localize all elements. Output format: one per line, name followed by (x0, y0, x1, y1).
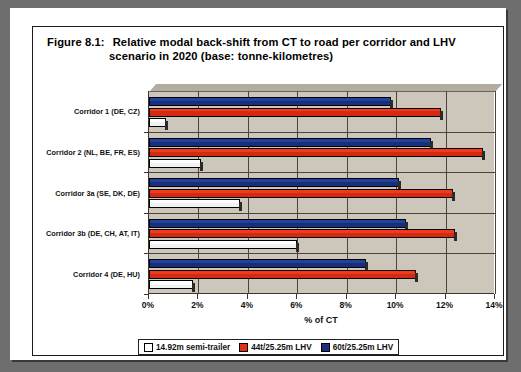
x-axis-tick (296, 294, 297, 299)
bar-shadow (192, 283, 195, 292)
legend-label-0: 14.92m semi-trailer (156, 343, 230, 352)
x-axis-tick (247, 294, 248, 299)
category-separator (149, 172, 495, 173)
page-background: Figure 8.1:Relative modal back-shift fro… (0, 0, 521, 372)
bar-shadow (200, 162, 203, 171)
bar-highlight (150, 200, 239, 203)
bar-highlight (150, 149, 482, 152)
figure-number: Figure 8.1: (47, 36, 105, 48)
y-axis-category-label: Corridor 1 (DE, CZ) (74, 107, 140, 116)
legend-item-1: 44t/25.25m LHV (239, 343, 312, 352)
x-axis-tick-label: 0% (142, 300, 154, 310)
bar-highlight (150, 241, 296, 244)
bar-shadow (165, 121, 168, 130)
bar-highlight (150, 220, 405, 223)
figure-title: Figure 8.1:Relative modal back-shift fro… (47, 35, 477, 63)
x-axis-tick-label: 12% (436, 300, 453, 310)
bar-highlight (150, 271, 415, 274)
x-axis-tick (148, 294, 149, 299)
bar-red (149, 189, 453, 198)
bar-highlight (150, 281, 192, 284)
x-axis-tick-label: 14% (485, 300, 502, 310)
x-axis-tick-label: 10% (387, 300, 404, 310)
gridline-vertical (495, 91, 496, 294)
bar-white (149, 159, 201, 168)
figure-page: Figure 8.1:Relative modal back-shift fro… (10, 8, 506, 360)
x-axis-tick-label: 8% (340, 300, 352, 310)
category-separator (149, 253, 495, 254)
bar-white (149, 199, 240, 208)
figure-title-line1: Relative modal back-shift from CT to roa… (113, 36, 456, 48)
x-axis-tick (346, 294, 347, 299)
bar-shadow (452, 192, 455, 201)
bar-shadow (454, 232, 457, 241)
y-axis-category-label: Corridor 2 (NL, BE, FR, ES) (46, 147, 140, 156)
plot-top-face (149, 84, 502, 92)
x-axis-tick (494, 294, 495, 299)
bar-shadow (440, 111, 443, 120)
y-axis-category-label: Corridor 3b (DE, CH, AT, IT) (46, 229, 140, 238)
legend-swatch-44t-lhv (239, 343, 248, 352)
x-axis-tick (197, 294, 198, 299)
bar-highlight (150, 139, 430, 142)
chart-legend: 14.92m semi-trailer 44t/25.25m LHV 60t/2… (138, 339, 399, 355)
y-axis-category-label: Corridor 3a (SE, DK, DE) (55, 188, 140, 197)
bar-blue (149, 259, 366, 268)
category-separator (149, 213, 495, 214)
bar-chart: Corridor 1 (DE, CZ)Corridor 2 (NL, BE, F… (148, 91, 496, 296)
x-axis-tick-label: 4% (241, 300, 253, 310)
bar-blue (149, 219, 406, 228)
legend-label-2: 60t/25.25m LHV (333, 343, 394, 352)
legend-label-1: 44t/25.25m LHV (251, 343, 312, 352)
bar-highlight (150, 160, 200, 163)
bar-red (149, 108, 441, 117)
bar-blue (149, 138, 431, 147)
legend-swatch-60t-lhv (321, 343, 330, 352)
bar-shadow (239, 202, 242, 211)
plot-area: Corridor 1 (DE, CZ)Corridor 2 (NL, BE, F… (148, 91, 494, 294)
bar-shadow (415, 273, 418, 282)
bar-highlight (150, 179, 398, 182)
bar-blue (149, 97, 391, 106)
x-axis-tick-label: 6% (290, 300, 302, 310)
bar-blue (149, 178, 399, 187)
bar-highlight (150, 119, 165, 122)
x-axis-tick (445, 294, 446, 299)
bar-shadow (296, 243, 299, 252)
x-axis-tick (395, 294, 396, 299)
x-axis-tick-label: 2% (191, 300, 203, 310)
figure-title-line2: scenario in 2020 (base: tonne-kilometres… (109, 49, 477, 63)
bar-highlight (150, 230, 454, 233)
bar-highlight (150, 260, 365, 263)
x-axis-title: % of CT (148, 315, 494, 325)
legend-swatch-semi-trailer (144, 343, 153, 352)
bar-red (149, 270, 416, 279)
bar-highlight (150, 109, 440, 112)
y-axis-category-label: Corridor 4 (DE, HU) (73, 269, 140, 278)
bar-shadow (482, 151, 485, 160)
figure-frame: Figure 8.1:Relative modal back-shift fro… (32, 26, 504, 356)
bar-red (149, 148, 483, 157)
bar-white (149, 240, 297, 249)
bar-white (149, 280, 193, 289)
bar-highlight (150, 190, 452, 193)
bar-white (149, 118, 166, 127)
legend-item-0: 14.92m semi-trailer (144, 343, 230, 352)
bar-red (149, 229, 455, 238)
legend-item-2: 60t/25.25m LHV (321, 343, 394, 352)
category-separator (149, 132, 495, 133)
bar-highlight (150, 98, 390, 101)
